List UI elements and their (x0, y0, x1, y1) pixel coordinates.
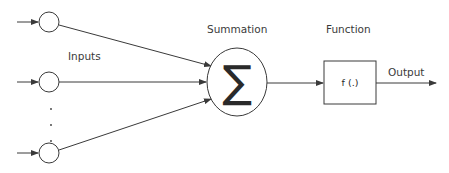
perceptron-diagram: ∑ f (.) Inputs Summation Function Output (0, 0, 449, 173)
function-label: Function (326, 23, 371, 35)
ellipsis-dot-1 (50, 108, 52, 110)
inputs-label: Inputs (68, 50, 101, 62)
ellipsis-dot-3 (50, 140, 52, 142)
connection-3 (59, 99, 211, 150)
input-node-1 (39, 12, 59, 32)
input-node-2 (39, 72, 59, 92)
summation-label: Summation (207, 23, 267, 35)
ellipsis-dot-2 (50, 124, 52, 126)
sigma-symbol: ∑ (222, 56, 252, 107)
input-node-3 (39, 143, 59, 163)
output-label: Output (388, 66, 424, 78)
function-symbol: f (.) (342, 77, 359, 88)
